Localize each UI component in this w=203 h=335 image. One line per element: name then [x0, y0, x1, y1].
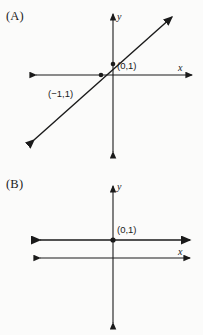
point-label-neg1-1: (−1,1) — [48, 88, 73, 99]
panel-a-graph — [0, 0, 203, 167]
x-axis-label: x — [178, 62, 182, 73]
point-marker-0-1 — [110, 237, 115, 242]
figure-container: (A) y x (0,1) (−1,1) (B) — [0, 0, 203, 335]
panel-b: (B) y x (0,1) — [0, 168, 203, 335]
point-marker-neg1-1 — [99, 73, 104, 78]
panel-a: (A) y x (0,1) (−1,1) — [0, 0, 203, 167]
y-axis-label: y — [117, 11, 121, 22]
panel-b-graph — [0, 168, 203, 335]
point-label-0-1: (0,1) — [117, 224, 137, 235]
x-axis-label: x — [178, 246, 182, 257]
point-label-0-1: (0,1) — [117, 60, 137, 71]
line-y-equals-x-plus-1 — [34, 17, 172, 140]
point-marker-0-1 — [111, 62, 116, 67]
y-axis-label: y — [117, 181, 121, 192]
